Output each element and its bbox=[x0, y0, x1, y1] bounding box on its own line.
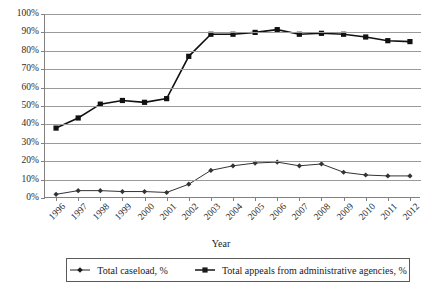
y-axis-tick bbox=[41, 51, 45, 52]
data-point bbox=[142, 189, 147, 194]
x-axis-label: 2010 bbox=[357, 202, 377, 222]
data-point bbox=[98, 188, 103, 193]
y-axis-tick bbox=[41, 14, 45, 15]
data-point bbox=[164, 190, 169, 195]
data-point bbox=[385, 173, 390, 178]
x-axis-tick bbox=[410, 197, 411, 201]
data-point bbox=[76, 115, 81, 120]
x-axis-tick bbox=[100, 197, 101, 201]
gridline bbox=[45, 69, 421, 70]
data-point bbox=[407, 39, 412, 44]
gridline bbox=[45, 32, 421, 33]
gridline bbox=[45, 51, 421, 52]
data-point bbox=[186, 182, 191, 187]
x-axis-tick bbox=[255, 197, 256, 201]
legend-item[interactable]: Total caseload, % bbox=[69, 265, 168, 276]
y-axis-label: 0% bbox=[26, 193, 39, 203]
x-axis-label: 2008 bbox=[313, 202, 333, 222]
y-axis-tick bbox=[41, 124, 45, 125]
gridline bbox=[45, 143, 421, 144]
chart-legend: Total caseload, %Total appeals from admi… bbox=[66, 258, 410, 282]
data-point bbox=[120, 189, 125, 194]
y-axis-label: 30% bbox=[22, 138, 39, 148]
x-axis-label: 2001 bbox=[158, 202, 178, 222]
x-axis-tick bbox=[388, 197, 389, 201]
x-axis-tick bbox=[145, 197, 146, 201]
y-axis-label: 20% bbox=[22, 156, 39, 166]
x-axis-tick bbox=[344, 197, 345, 201]
gridline bbox=[45, 14, 421, 15]
gridline bbox=[45, 180, 421, 181]
x-axis-label: 1998 bbox=[92, 202, 112, 222]
data-point bbox=[341, 170, 346, 175]
x-axis-tick bbox=[366, 197, 367, 201]
x-axis-title: Year bbox=[0, 238, 442, 249]
y-axis-tick bbox=[41, 198, 45, 199]
x-axis-label: 2012 bbox=[402, 202, 422, 222]
y-axis-label: 70% bbox=[22, 64, 39, 74]
legend-label: Total caseload, % bbox=[97, 265, 168, 276]
y-axis-tick bbox=[41, 180, 45, 181]
y-axis-label: 100% bbox=[17, 9, 39, 19]
x-axis-tick bbox=[277, 197, 278, 201]
y-axis-label: 40% bbox=[22, 120, 39, 130]
data-point bbox=[385, 38, 390, 43]
series-line-2 bbox=[56, 30, 410, 128]
y-axis-tick bbox=[41, 69, 45, 70]
y-axis-tick bbox=[41, 88, 45, 89]
data-point bbox=[363, 172, 368, 177]
y-axis-tick bbox=[41, 161, 45, 162]
x-axis-label: 1997 bbox=[70, 202, 90, 222]
gridline bbox=[45, 124, 421, 125]
legend-diamond-icon bbox=[69, 265, 91, 275]
x-axis-tick bbox=[122, 197, 123, 201]
x-axis-tick bbox=[78, 197, 79, 201]
x-axis-label: 2007 bbox=[291, 202, 311, 222]
x-axis-label: 2004 bbox=[225, 202, 245, 222]
data-point bbox=[53, 125, 58, 130]
y-axis-label: 10% bbox=[22, 175, 39, 185]
data-point bbox=[208, 168, 213, 173]
gridline bbox=[45, 106, 421, 107]
data-point bbox=[120, 98, 125, 103]
gridline bbox=[45, 88, 421, 89]
x-axis-tick bbox=[211, 197, 212, 201]
gridline bbox=[45, 161, 421, 162]
data-point bbox=[363, 34, 368, 39]
data-point bbox=[297, 163, 302, 168]
x-axis-label: 2005 bbox=[247, 202, 267, 222]
x-axis-tick bbox=[167, 197, 168, 201]
data-point bbox=[407, 173, 412, 178]
data-point bbox=[164, 96, 169, 101]
data-point bbox=[186, 54, 191, 59]
x-axis-tick bbox=[189, 197, 190, 201]
x-axis-label: 2011 bbox=[380, 202, 400, 222]
plot-area: 0%10%20%30%40%50%60%70%80%90%100%1996199… bbox=[44, 14, 420, 198]
x-axis-label: 2003 bbox=[202, 202, 222, 222]
x-axis-tick bbox=[321, 197, 322, 201]
x-axis-label: 2002 bbox=[180, 202, 200, 222]
legend-square-icon bbox=[194, 265, 216, 275]
x-axis-label: 2000 bbox=[136, 202, 156, 222]
data-point bbox=[142, 100, 147, 105]
data-point bbox=[76, 188, 81, 193]
x-axis-tick bbox=[299, 197, 300, 201]
x-axis-tick bbox=[56, 197, 57, 201]
x-axis-tick bbox=[233, 197, 234, 201]
line-chart: 0%10%20%30%40%50%60%70%80%90%100%1996199… bbox=[0, 0, 442, 295]
y-axis-tick bbox=[41, 143, 45, 144]
x-axis-label: 1999 bbox=[114, 202, 134, 222]
x-axis-label: 2009 bbox=[335, 202, 355, 222]
y-axis-label: 80% bbox=[22, 46, 39, 56]
y-axis-label: 50% bbox=[22, 101, 39, 111]
legend-label: Total appeals from administrative agenci… bbox=[222, 265, 407, 276]
x-axis-label: 2006 bbox=[269, 202, 289, 222]
y-axis-tick bbox=[41, 106, 45, 107]
legend-item[interactable]: Total appeals from administrative agenci… bbox=[194, 265, 407, 276]
y-axis-tick bbox=[41, 32, 45, 33]
x-axis-label: 1996 bbox=[48, 202, 68, 222]
data-point bbox=[230, 163, 235, 168]
y-axis-label: 60% bbox=[22, 83, 39, 93]
y-axis-label: 90% bbox=[22, 28, 39, 38]
